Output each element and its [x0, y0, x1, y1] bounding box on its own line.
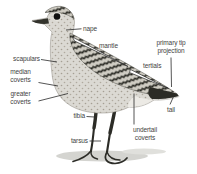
label-greater-coverts: greater coverts — [4, 90, 37, 106]
diagram-canvas: nape mantle primary tip projection terti… — [0, 0, 197, 174]
eye — [54, 13, 61, 20]
ground-shadow-light — [122, 149, 166, 155]
label-mantle: mantle — [99, 42, 118, 50]
label-undertail-coverts: undertail coverts — [123, 126, 167, 142]
pointer-tibia — [87, 117, 95, 118]
label-tail: tail — [162, 106, 180, 114]
label-primary-tip-projection: primary tip projection — [148, 39, 194, 55]
label-scapulars: scapulars — [2, 55, 40, 63]
back-tarsus — [107, 133, 110, 152]
label-nape: nape — [83, 25, 97, 33]
label-median-coverts: median coverts — [4, 68, 37, 84]
label-tarsus: tarsus — [58, 137, 88, 145]
pointer-primary-tip — [171, 58, 172, 88]
label-tertials: tertials — [143, 62, 161, 70]
front-tarsus — [91, 128, 94, 151]
label-tibia: tibia — [62, 112, 85, 120]
bird-illustration — [0, 0, 197, 174]
